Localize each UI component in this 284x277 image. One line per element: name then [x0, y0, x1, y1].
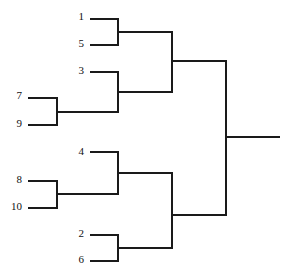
seed-label-9: 9: [8, 118, 22, 129]
seed-label-10: 10: [3, 201, 22, 212]
seed-label-4: 4: [70, 146, 84, 157]
seed-label-5: 5: [70, 38, 84, 49]
seed-label-2: 2: [70, 228, 84, 239]
bracket-line-art: [0, 0, 284, 277]
seed-label-6: 6: [70, 254, 84, 265]
tournament-bracket-diagram: 1 5 3 7 9 4 8 10 2 6: [0, 0, 284, 277]
seed-label-1: 1: [70, 11, 84, 22]
seed-label-8: 8: [8, 174, 22, 185]
seed-label-3: 3: [70, 65, 84, 76]
seed-label-7: 7: [8, 90, 22, 101]
